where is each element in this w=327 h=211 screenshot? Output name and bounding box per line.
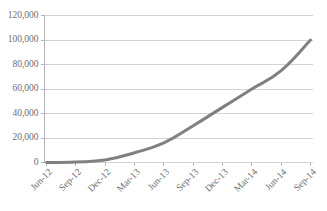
series-line [47,40,311,163]
data-series [47,40,311,163]
x-tick-label: Mar-13 [115,167,142,194]
x-tick-label: Sep-14 [292,167,318,193]
y-tick-label: 20,000 [12,132,38,142]
gridlines [45,16,313,163]
y-tick-label: 120,000 [8,10,39,20]
x-tick-label: Jun-14 [263,167,289,193]
y-tick-label: 80,000 [12,59,38,69]
y-tick-marks [41,16,45,163]
x-tick-label: Mar-14 [232,167,259,194]
x-tick-label: Jun-13 [146,167,172,193]
x-tick-label: Sep-13 [174,167,200,193]
x-tick-label: Dec-13 [203,167,230,194]
x-axis-tick-labels: Jun-12Sep-12Dec-12Mar-13Jun-13Sep-13Dec-… [29,167,319,194]
line-chart: 020,00040,00060,00080,000100,000120,000 … [0,0,327,211]
y-axis-tick-labels: 020,00040,00060,00080,000100,000120,000 [8,10,39,167]
y-tick-label: 100,000 [8,34,39,44]
y-tick-label: 40,000 [12,108,38,118]
x-tick-label: Jun-12 [29,167,55,193]
y-tick-label: 0 [34,157,39,167]
chart-canvas: 020,00040,00060,00080,000100,000120,000 … [0,0,327,211]
x-tick-label: Dec-12 [86,167,113,194]
y-tick-label: 60,000 [12,83,38,93]
x-tick-label: Sep-12 [57,167,83,193]
